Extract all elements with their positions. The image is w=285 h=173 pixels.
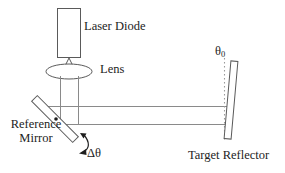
label-laser-diode: Laser Diode (84, 20, 145, 34)
label-reference-mirror-line1: Reference (11, 117, 62, 131)
target-reflector (224, 61, 238, 139)
label-reference-mirror: ReferenceMirror (2, 118, 70, 145)
label-reference-mirror-line2: Mirror (2, 132, 70, 146)
lens-element (46, 64, 92, 79)
label-lens: Lens (100, 63, 124, 77)
label-delta-theta: Δθ (87, 147, 101, 161)
theta-subscript: 0 (221, 49, 225, 59)
rotation-arrow-head-left (79, 149, 87, 155)
label-theta0: θ0 (215, 45, 225, 59)
laser-diode-body (58, 9, 81, 58)
label-target-reflector: Target Reflector (188, 149, 269, 163)
optical-diagram: Laser Diode Lens ReferenceMirror Δθ θ0 T… (0, 0, 285, 173)
